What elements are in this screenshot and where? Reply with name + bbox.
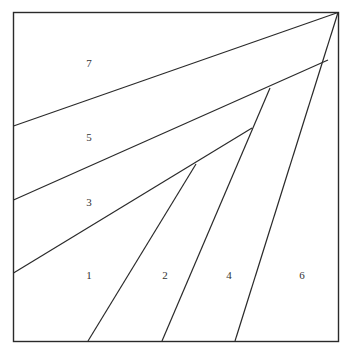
seam-2-4 xyxy=(162,88,270,341)
piece-label-4: 4 xyxy=(226,269,232,281)
seam-lines xyxy=(14,13,339,342)
piece-label-6: 6 xyxy=(299,269,305,281)
piece-label-2: 2 xyxy=(162,269,168,281)
piece-label-5: 5 xyxy=(86,131,92,143)
seam-5-3 xyxy=(14,60,329,200)
seam-3-1 xyxy=(14,128,253,273)
piece-label-7: 7 xyxy=(86,57,92,69)
block-outline xyxy=(14,13,339,342)
seam-1-2 xyxy=(88,164,196,341)
seam-4-6 xyxy=(235,13,338,342)
piece-labels: 1 2 3 4 5 6 7 xyxy=(86,57,305,281)
seam-7-5 xyxy=(14,13,339,127)
piece-label-1: 1 xyxy=(86,269,92,281)
piece-label-3: 3 xyxy=(86,196,92,208)
quilt-block-diagram: 1 2 3 4 5 6 7 xyxy=(0,0,350,356)
